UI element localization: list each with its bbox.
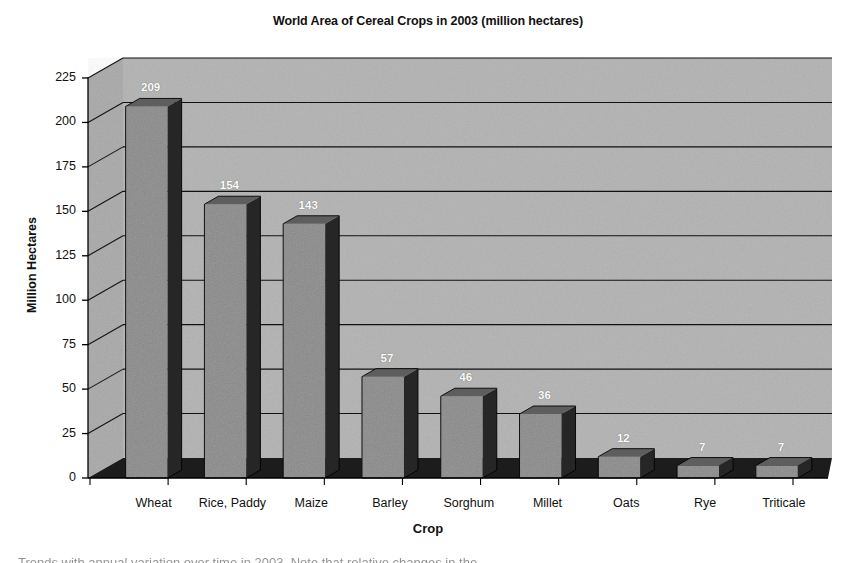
- bar-value-label: 7: [672, 441, 732, 453]
- plot-canvas: [0, 0, 856, 500]
- y-axis-tick-label: 50: [34, 382, 76, 394]
- y-axis-tick-label: 0: [34, 471, 76, 483]
- bar-value-label: 154: [199, 179, 259, 191]
- y-axis-tick-label: 25: [34, 427, 76, 439]
- y-axis-tick-label: 75: [34, 338, 76, 350]
- bar-value-label: 36: [515, 389, 575, 401]
- y-axis-tick-label: 175: [34, 160, 76, 172]
- y-axis-tick-label: 100: [34, 293, 76, 305]
- bar-value-label: 7: [751, 441, 811, 453]
- bar-value-label: 46: [436, 371, 496, 383]
- bar-value-label: 12: [593, 432, 653, 444]
- chart-figure: World Area of Cereal Crops in 2003 (mill…: [0, 0, 856, 563]
- bar-value-label: 209: [121, 81, 181, 93]
- bar-value-label: 57: [357, 352, 417, 364]
- x-axis-tick-label: Triticale: [729, 496, 839, 510]
- plot-area: [0, 0, 856, 500]
- bar-value-label: 143: [278, 199, 338, 211]
- page-caption-clipped: Trends with annual variation over time i…: [0, 556, 856, 563]
- y-axis-tick-label: 150: [34, 204, 76, 216]
- x-axis-title: Crop: [0, 521, 856, 536]
- caption-text: Trends with annual variation over time i…: [0, 556, 856, 563]
- y-axis-tick-label: 125: [34, 249, 76, 261]
- y-axis-tick-label: 200: [34, 115, 76, 127]
- y-axis-tick-label: 225: [34, 71, 76, 83]
